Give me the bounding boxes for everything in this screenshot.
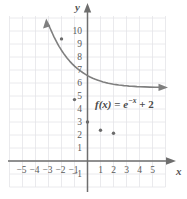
function-equation-label: f(x) = e−x + 2 (95, 99, 154, 110)
ytick-5: 5 (66, 92, 82, 102)
xtick-2: 2 (107, 166, 120, 176)
y-axis-arrowhead (84, 3, 91, 13)
xtick-neg1: −1 (65, 166, 82, 176)
xtick-1: 1 (94, 166, 107, 176)
xtick-4: 4 (133, 166, 146, 176)
equals-sign: = (112, 98, 124, 110)
x-axis-arrowhead (166, 157, 176, 165)
xtick-3: 3 (120, 166, 133, 176)
function-argument: (x) (99, 98, 112, 110)
ytick-1: 1 (66, 144, 82, 154)
point-zero (86, 120, 89, 123)
ytick-9: 9 (66, 40, 82, 50)
ytick-4: 4 (66, 105, 82, 115)
x-axis-label: x (176, 166, 182, 177)
point-one (99, 129, 102, 132)
constant-term: + 2 (136, 98, 153, 110)
curve-right-arrowhead (159, 84, 169, 91)
point-neg2 (60, 37, 63, 40)
graph-figure: y x 10 9 8 7 6 5 4 3 2 1 −1 −5 −4 −3 −2 … (0, 0, 187, 199)
ytick-7: 7 (66, 66, 82, 76)
point-two (112, 132, 115, 135)
ytick-3: 3 (66, 118, 82, 128)
y-axis-label: y (75, 2, 80, 13)
ytick-2: 2 (66, 131, 82, 141)
axis-arrowheads (84, 3, 176, 165)
ytick-6: 6 (66, 79, 82, 89)
ytick-10: 10 (66, 27, 82, 37)
ytick-8: 8 (66, 53, 82, 63)
xtick-5: 5 (146, 166, 159, 176)
